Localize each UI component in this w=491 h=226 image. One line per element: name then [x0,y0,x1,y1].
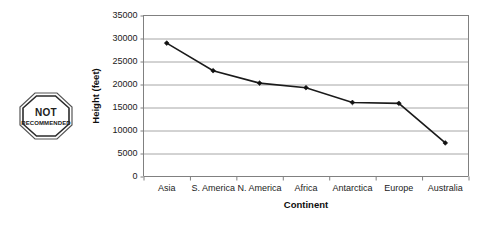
x-tick-label: Europe [384,183,413,193]
x-tick-labels-group: AsiaS. AmericaN. AmericaAfricaAntarctica… [158,183,463,193]
x-tick-marks-group [144,177,469,181]
x-tick-label: Antarctica [332,183,372,193]
y-tick-label: 30000 [112,33,137,43]
y-axis-title: Height (feet) [90,68,101,123]
y-tick-label: 10000 [112,125,137,135]
data-series-line [167,43,446,143]
x-tick-label: N. America [238,183,282,193]
y-tick-label: 20000 [112,79,137,89]
gridlines-group [144,39,469,154]
data-point-marker [304,85,309,90]
y-tick-label: 25000 [112,56,137,66]
x-tick-label: Asia [158,183,176,193]
x-axis-title: Continent [284,199,329,210]
x-tick-label: Australia [428,183,463,193]
x-tick-label: Africa [294,183,317,193]
line-chart: 05000100001500020000250003000035000 Asia… [0,0,491,226]
y-tick-label: 15000 [112,102,137,112]
y-tick-label: 0 [132,171,137,181]
data-point-marker [350,100,355,105]
x-tick-label: S. America [191,183,235,193]
data-markers-group [164,41,447,146]
y-tick-label: 5000 [117,148,137,158]
y-tick-label: 35000 [112,10,137,20]
y-tick-labels-group: 05000100001500020000250003000035000 [112,10,137,181]
